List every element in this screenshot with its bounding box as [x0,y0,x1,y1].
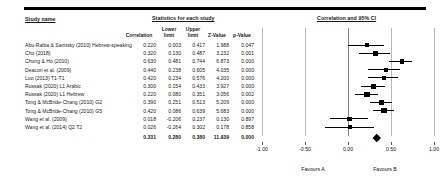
effect-size-marker [384,68,388,72]
z-value-cell: 4.200 [204,74,229,82]
correlation-cell: 0.220 [122,41,156,49]
z-value-cell: 3.232 [204,49,229,57]
ci-marker-row [262,107,434,115]
upper-limit-cell: 0.513 [181,98,205,106]
summary-diamond-row [262,133,434,141]
lower-limit-cell: 0.003 [157,41,181,49]
p-value-cell: 0.000 [229,107,254,115]
p-value-cell: 0.000 [229,74,254,82]
z-value-cell: 11.939 [204,133,229,141]
favours-b-label: Favours B [350,166,420,172]
ci-marker-row [262,66,434,74]
ci-marker-row [262,115,434,123]
upper-limit-cell: 0.433 [181,82,205,90]
study-name-cell: Wang et al. (2014) Q2 T2 [25,123,82,131]
study-name-cell: Wang et al. (2009) [25,115,67,123]
forest-plot-panel [262,28,434,144]
upper-limit-cell: 0.302 [181,123,205,131]
axis-tick--0.50 [305,142,306,145]
study-name-cell: Tong & McBride-Chang (2010) G2 [25,98,102,106]
study-name-cell: Russak (2020) L1 Arabic [25,82,81,90]
upper-limit-cell: 0.605 [181,66,205,74]
z-value-cell: 0.130 [204,115,229,123]
lower-limit-cell: 0.234 [157,74,181,82]
effect-size-marker [381,108,386,113]
x-axis: -1.00-0.500.000.501.00 [262,142,434,158]
upper-limit-cell: 0.237 [181,115,205,123]
effect-size-marker [348,125,352,129]
axis-tick-label--0.50: -0.50 [290,146,320,152]
ci-marker-row [262,49,434,57]
p-value-cell: 0.858 [229,123,254,131]
study-name-cell: Abu-Rabia & Sanitsky (2010) Hebrew-speak… [25,41,132,49]
study-name-cell: Deacon et al. (2009) [25,66,71,74]
ci-marker-row [262,41,434,49]
study-name-cell: Cho (2018) [25,49,50,57]
ci-marker-row [262,98,434,106]
p-value-cell: 0.001 [229,49,254,57]
axis-tick-label-0.00: 0.00 [333,146,363,152]
correlation-cell: 0.026 [122,123,156,131]
correlation-cell: 0.331 [122,133,156,141]
correlation-cell: 0.300 [122,82,156,90]
effect-size-marker [379,100,384,105]
effect-size-marker [400,59,405,64]
p-value-cell: 0.000 [229,57,254,65]
lower-limit-cell: 0.280 [157,133,181,141]
lower-limit-cell: -0.264 [157,123,181,131]
study-name-cell: Luo (2013) T1-T1 [25,74,65,82]
axis-tick-1.00 [434,142,435,145]
correlation-cell: 0.420 [122,74,156,82]
study-name-cell: Russak (2020) L1 Hebrew [25,90,84,98]
favours-a-label: Favours A [278,166,348,172]
axis-tick-0.50 [391,142,392,145]
upper-limit-cell: 0.576 [181,74,205,82]
correlation-cell: 0.320 [122,49,156,57]
p-value-cell: 0.002 [229,90,254,98]
effect-size-marker [347,117,351,121]
upper-limit-cell: 0.417 [181,41,205,49]
lower-limit-cell: 0.251 [157,98,181,106]
effect-size-marker [382,76,386,80]
p-value-cell: 0.000 [229,66,254,74]
z-value-cell: 6.873 [204,57,229,65]
axis-tick-label-1.00: 1.00 [419,146,441,152]
lower-limit-cell: -0.206 [157,115,181,123]
correlation-cell: 0.630 [122,57,156,65]
gridline-1.00 [434,28,435,136]
p-value-cell: 0.897 [229,115,254,123]
z-value-cell: 5.683 [204,107,229,115]
z-value-cell: 0.178 [204,123,229,131]
study-name-cell: Chung & Ho (2010) [25,57,69,65]
lower-limit-cell: 0.086 [157,107,181,115]
study-name-cell: Tong & McBride-Chang (2010) G5 [25,107,102,115]
lower-limit-cell: 0.238 [157,66,181,74]
upper-limit-cell: 0.487 [181,49,205,57]
ci-marker-row [262,74,434,82]
axis-tick-0.00 [348,142,349,145]
effect-size-marker [373,51,378,56]
forest-plot-figure: Study name Statistics for each study Cor… [0,0,441,187]
lower-limit-cell: 0.080 [157,90,181,98]
lower-limit-cell: 0.154 [157,82,181,90]
lower-limit-cell: 0.481 [157,57,181,65]
z-value-cell: 5.209 [204,98,229,106]
lower-limit-cell: 0.130 [157,49,181,57]
axis-tick-label-0.50: 0.50 [376,146,406,152]
p-value-cell: 0.000 [229,133,254,141]
upper-limit-cell: 0.639 [181,107,205,115]
ci-marker-row [262,90,434,98]
correlation-cell: 0.018 [122,115,156,123]
effect-size-marker [365,43,369,47]
z-value-cell: 3.056 [204,90,229,98]
z-value-cell: 4.035 [204,66,229,74]
z-value-cell: 3.927 [204,82,229,90]
axis-tick--1.00 [262,142,263,145]
summary-diamond [373,133,381,141]
effect-size-marker [371,84,376,89]
p-value-cell: 0.047 [229,41,254,49]
p-value-cell: 0.000 [229,82,254,90]
effect-size-marker [364,92,369,97]
upper-limit-cell: 0.351 [181,90,205,98]
correlation-cell: 0.420 [122,107,156,115]
